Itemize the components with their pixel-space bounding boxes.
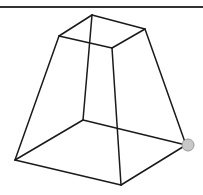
edge-bottom-back-left [15, 120, 83, 160]
edge-top-front-right [112, 29, 145, 48]
edge-lateral-front [112, 48, 121, 185]
edge-bottom-right-back [83, 120, 186, 145]
edge-bottom-front-right [121, 145, 186, 185]
edge-lateral-left [15, 36, 59, 160]
edge-lateral-back [83, 15, 92, 120]
edge-top-left-front [59, 36, 112, 48]
vertex-drag-handle[interactable] [182, 139, 194, 151]
frustum-diagram [0, 0, 203, 195]
edge-top-right-back [92, 15, 145, 29]
edge-bottom-left-front [15, 160, 121, 185]
edge-top-back-left [59, 15, 92, 36]
edge-lateral-right [145, 29, 186, 145]
